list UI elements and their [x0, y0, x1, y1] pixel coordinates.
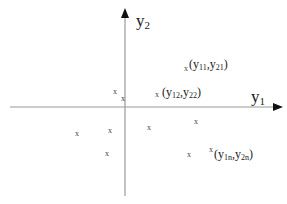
data-point-marker: x: [155, 91, 159, 99]
coord-b-sub: 22: [189, 91, 197, 100]
point-label: (y12,y22): [162, 86, 201, 100]
data-point-marker: x: [187, 151, 191, 159]
paren-close: ): [249, 147, 253, 161]
data-point-marker: x: [209, 146, 213, 154]
paren-close: ): [197, 85, 201, 99]
coord-b-sub: 2n: [241, 153, 249, 162]
point-label: (y1n,y2n): [214, 148, 253, 162]
data-point-marker: x: [184, 65, 188, 73]
coord-b-sub: 21: [216, 63, 224, 72]
y2-axis-label-base: y: [136, 11, 145, 30]
y1-axis-arrow-icon: [273, 103, 283, 111]
data-point-marker: x: [147, 124, 151, 132]
y2-axis-label-sub: 2: [145, 19, 151, 31]
data-point-marker: x: [194, 118, 198, 126]
point-label: (y11,y21): [189, 58, 228, 72]
coord-a-sub: 12: [172, 91, 180, 100]
data-point-marker: x: [113, 88, 117, 96]
data-point-marker: x: [121, 95, 125, 103]
data-point-marker: x: [108, 127, 112, 135]
data-point-marker: x: [105, 150, 109, 158]
coord-a-sub: 1n: [224, 153, 232, 162]
paren-close: ): [224, 57, 228, 71]
y2-axis-arrow-icon: [121, 8, 129, 18]
coord-a-sub: 11: [199, 63, 207, 72]
y1-axis-label-sub: 1: [260, 95, 266, 107]
y1-axis-label-base: y: [251, 87, 260, 106]
y1-axis-label: y1: [251, 88, 265, 107]
y2-axis-label: y2: [136, 12, 150, 31]
data-point-marker: x: [75, 130, 79, 138]
